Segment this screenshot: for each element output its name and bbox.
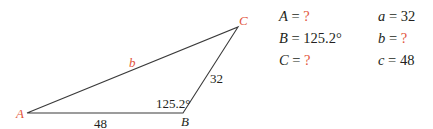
known-value: 48 xyxy=(400,52,415,68)
var-name: C xyxy=(279,52,289,68)
side-label-a: 32 xyxy=(210,72,223,85)
given-row-angle-b: B = 125.2° xyxy=(279,30,342,46)
given-row-angle-c: C = ? xyxy=(279,52,311,68)
known-value: 32 xyxy=(401,8,416,24)
unknown-value: ? xyxy=(304,52,310,68)
unknown-value: ? xyxy=(401,30,407,46)
triangle-abc xyxy=(27,27,238,113)
equals: = xyxy=(384,52,399,68)
equals: = xyxy=(385,30,400,46)
unknown-value: ? xyxy=(303,8,309,24)
triangle-figure: A B C b 32 48 125.2° xyxy=(0,0,260,129)
vertex-label-c: C xyxy=(239,14,248,27)
given-row-side-a: a = 32 xyxy=(378,8,415,24)
vertex-label-b: B xyxy=(181,115,189,128)
var-name: B xyxy=(279,30,288,46)
side-label-b: b xyxy=(129,56,136,69)
given-row-side-b: b = ? xyxy=(378,30,407,46)
equals: = xyxy=(288,30,303,46)
equals: = xyxy=(288,8,303,24)
equals: = xyxy=(385,8,400,24)
given-row-angle-a: A = ? xyxy=(279,8,310,24)
given-row-side-c: c = 48 xyxy=(378,52,414,68)
equals: = xyxy=(289,52,304,68)
vertex-label-a: A xyxy=(16,107,24,120)
var-name: A xyxy=(279,8,288,24)
angle-b-label: 125.2° xyxy=(156,97,190,110)
side-label-c: 48 xyxy=(94,117,107,129)
known-value: 125.2° xyxy=(303,30,341,46)
